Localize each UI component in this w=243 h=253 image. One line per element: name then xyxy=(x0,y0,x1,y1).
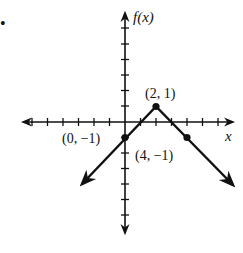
function-curve xyxy=(82,107,233,186)
y-axis-label: f(x) xyxy=(133,9,154,26)
point-2-1 xyxy=(152,103,159,110)
function-graph: • f(x) x (2, 1) xyxy=(0,0,243,253)
point-4-neg1 xyxy=(183,134,190,141)
point-label-0-neg1: (0, −1) xyxy=(62,131,101,147)
point-label-4-neg1: (4, −1) xyxy=(135,148,174,164)
point-0-neg1 xyxy=(121,134,128,141)
x-axis-label: x xyxy=(224,128,232,144)
problem-bullet: • xyxy=(0,15,6,32)
point-label-2-1: (2, 1) xyxy=(145,86,176,102)
